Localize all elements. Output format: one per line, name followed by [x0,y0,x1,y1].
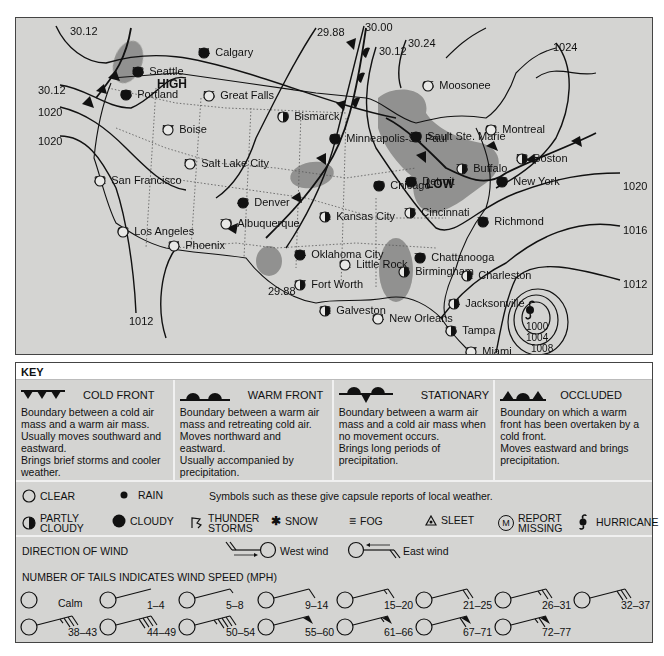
clear-icon [339,259,351,271]
isobar-label: 1004 [526,332,548,343]
occluded-front-label: OCCLUDED [560,389,622,401]
city-name: Chattanooga [431,252,494,263]
city-station: 48Denver [237,197,290,208]
sleet-icon [425,515,437,526]
wind-speed-label: NUMBER OF TAILS INDICATES WIND SPEED (MP… [22,571,277,583]
isobar-label: 1000 [526,321,548,332]
partly-cloudy-icon [319,211,331,223]
city-station: 81Kansas City [319,211,395,222]
isobar-label: 1020 [38,136,62,147]
legend-sleet: SLEET [425,514,474,526]
partly-cloudy-icon [456,163,468,175]
wind-speed-label: 1–4 [147,599,165,611]
cloudy-icon [112,514,126,528]
legend-partly-cloudy: PARTLYCLOUDY [22,513,84,533]
city-name: Salt Lake City [201,158,269,169]
city-station: 63Portland [120,89,178,100]
cloudy-icon [477,216,489,228]
snow-icon: ✱ [271,514,281,528]
partly-cloudy-icon [398,266,410,278]
city-name: Albuquerque [237,218,299,229]
cloudy-icon [405,176,417,188]
isobar-label: 1008 [531,343,553,354]
east-wind-label: East wind [403,545,449,557]
wind-speed-entry: Calm [20,585,100,611]
city-name: Charleston [478,270,531,281]
wind-speed-label: 32–37 [621,599,650,611]
wind-direction-label: DIRECTION OF WIND [22,545,128,557]
isobar-label: 1016 [623,225,647,236]
city-station: 57Boise [162,124,207,135]
city-name: Portland [137,89,178,100]
city-name: Boise [179,124,207,135]
city-station: 87Fort Worth [294,279,363,290]
clear-icon [220,218,232,230]
wind-speed-entry: 26–31 [494,585,574,611]
wind-speed-label: 67–71 [463,626,492,638]
thunderstorm-label-2: STORMS [208,522,253,534]
stationary-front-label: STATIONARY [421,389,489,401]
city-station: 58Boston [516,153,568,164]
occluded-front-icon [500,389,546,401]
city-station: 84Phoenix [168,240,225,251]
clear-icon [117,226,129,238]
wind-speed-entry: 55–60 [257,612,337,638]
symbols-note: Symbols such as these give capsule repor… [209,490,493,502]
cloudy-icon [373,180,385,192]
partly-cloudy-icon [277,111,289,123]
partly-cloudy-icon [445,325,457,337]
city-name: New York [513,176,559,187]
hurricane-icon [578,514,588,530]
fronts-legend: COLD FRONT Boundary between a cold air m… [16,380,652,482]
city-name: Cincinnati [421,207,469,218]
legend-hurricane: HURRICANE [578,514,658,530]
wind-speed-entry: 9–14 [257,585,337,611]
legend-thunderstorms: THUNDERSTORMS [190,513,259,533]
cold-front-label: COLD FRONT [83,389,155,401]
wind-speed-entry: 72–77 [494,612,574,638]
wind-speed-label: 26–31 [542,599,571,611]
city-station: 70Albuquerque [220,218,300,229]
wind-speed-label: 5–8 [226,599,244,611]
clear-icon [94,175,106,187]
cloudy-label: CLOUDY [130,515,174,527]
report-missing-label-2: MISSING [518,522,562,534]
cloudy-icon [329,133,341,145]
partly-cloudy-icon [448,298,460,310]
wind-speed-entry: 15–20 [336,585,416,611]
clear-label: CLEAR [40,490,75,502]
wind-speed-label: 55–60 [305,626,334,638]
rain-icon [120,491,128,499]
clear-icon [203,90,215,102]
city-station: 73Buffalo [456,163,507,174]
isobar-label: 29.88 [268,286,296,297]
city-station: 73Cincinnati [404,207,470,218]
city-station: 84Jacksonville [448,298,525,309]
city-station: 84New Orleans [372,313,453,324]
legend-occluded-front: OCCLUDED Boundary on which a warm front … [495,380,652,480]
cold-front-description: Boundary between a cold air mass and a w… [21,406,169,478]
thunderstorm-icon [190,516,204,530]
cloudy-icon [414,252,426,264]
legend-west-wind [224,539,280,561]
partly-cloudy-icon [319,305,331,317]
wind-speed-entry: 5–8 [178,585,258,611]
city-station: 82Charleston [461,270,531,281]
city-name: Jacksonville [465,298,524,309]
city-name: Los Angeles [134,226,194,237]
city-name: New Orleans [389,313,453,324]
legend-stationary-front: STATIONARY Boundary between a warm air m… [334,380,495,480]
city-station: 58Seattle [132,66,184,77]
legend-clear: CLEAR [22,489,75,503]
wind-speed-entry: 44–49 [99,612,179,638]
clear-icon [422,80,434,92]
cloudy-icon [294,249,306,261]
cloudy-icon [496,176,508,188]
key-title: KEY [16,363,652,380]
city-station: 62Montreal [485,124,545,135]
partly-cloudy-label-2: CLOUDY [40,522,84,534]
city-station: 55Great Falls [203,90,274,101]
hurricane-icon [526,301,534,318]
occluded-front-description: Boundary on which a warm front has been … [500,406,648,466]
city-name: Detroit [422,176,454,187]
